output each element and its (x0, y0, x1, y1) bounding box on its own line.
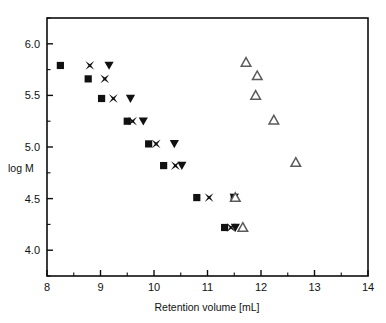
x-axis-label: Retention volume [mL] (154, 301, 259, 313)
x-tick-label: 10 (148, 281, 160, 293)
marker-triangle-down (126, 95, 135, 103)
marker-triangle-up-open (269, 115, 279, 124)
y-tick-label: 4.0 (25, 244, 40, 256)
marker-triangle-down (170, 140, 179, 148)
x-axis-tick-labels: 891011121314 (44, 281, 374, 293)
x-tick-label: 14 (362, 281, 374, 293)
series-filled-triangle-down (104, 62, 239, 232)
plot-frame (47, 18, 368, 276)
x-axis-ticks (47, 270, 368, 276)
marker-square (98, 95, 105, 102)
x-tick-label: 12 (255, 281, 267, 293)
marker-square (57, 62, 64, 69)
marker-triangle-down (104, 62, 113, 70)
y-axis-label: log M (8, 162, 34, 174)
chart-figure: 891011121314 4.04.55.05.56.0 Retention v… (0, 0, 386, 323)
marker-square (145, 140, 152, 147)
y-tick-label: 6.0 (25, 38, 40, 50)
marker-cross (109, 94, 118, 103)
x-tick-label: 13 (308, 281, 320, 293)
marker-square (193, 194, 200, 201)
y-tick-label: 5.5 (25, 89, 40, 101)
marker-cross (85, 61, 94, 70)
marker-square (160, 162, 167, 169)
marker-triangle-up-open (252, 71, 262, 80)
y-axis-ticks (47, 18, 53, 276)
marker-cross (152, 140, 161, 149)
scatter-plot-canvas: 891011121314 4.04.55.05.56.0 Retention v… (0, 0, 386, 323)
marker-cross (205, 193, 214, 202)
series-filled-square (57, 62, 238, 231)
x-tick-label: 11 (202, 281, 213, 293)
x-tick-label: 9 (97, 281, 103, 293)
marker-square (85, 75, 92, 82)
y-tick-label: 5.0 (25, 141, 40, 153)
series-x-star (85, 61, 238, 232)
data-markers (57, 58, 301, 232)
marker-triangle-down (139, 117, 148, 125)
marker-triangle-up-open (291, 158, 301, 167)
marker-square (221, 224, 228, 231)
series-open-triangle-up (231, 58, 301, 232)
y-tick-label: 4.5 (25, 193, 40, 205)
marker-cross (100, 74, 109, 83)
y-axis-tick-labels: 4.04.55.05.56.0 (25, 38, 40, 256)
marker-triangle-up-open (241, 58, 251, 67)
x-tick-label: 8 (44, 281, 50, 293)
marker-triangle-up-open (251, 91, 261, 100)
